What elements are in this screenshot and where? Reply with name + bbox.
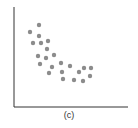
- data-point: [77, 70, 81, 74]
- data-point: [59, 61, 63, 65]
- data-point: [36, 54, 40, 58]
- data-point: [82, 66, 86, 70]
- data-point: [38, 62, 42, 66]
- data-point: [46, 39, 50, 43]
- data-point: [89, 66, 93, 70]
- data-point: [37, 23, 41, 27]
- data-point: [37, 34, 41, 38]
- data-point: [68, 64, 72, 68]
- data-point: [31, 41, 35, 45]
- data-point: [39, 41, 43, 45]
- data-point: [81, 79, 85, 83]
- data-point: [72, 78, 76, 82]
- data-point: [47, 71, 51, 75]
- data-point: [45, 47, 49, 51]
- data-point: [61, 77, 65, 81]
- data-point: [44, 56, 48, 60]
- data-point: [60, 70, 64, 74]
- figure-caption: (c): [0, 110, 138, 120]
- data-point: [50, 65, 54, 69]
- scatter-plot: [0, 0, 138, 128]
- data-point: [88, 74, 92, 78]
- data-points: [28, 23, 93, 83]
- data-point: [28, 30, 32, 34]
- data-point: [52, 53, 56, 57]
